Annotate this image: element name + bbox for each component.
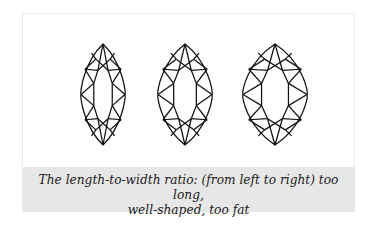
marquise-diamond-too-long: [81, 44, 125, 145]
marquise-diamond-well-shaped: [158, 44, 212, 145]
figure-caption: The length-to-width ratio: (from left to…: [22, 167, 355, 212]
caption-line-1: The length-to-width ratio: (from left to…: [22, 173, 355, 203]
marquise-diamond-too-fat: [243, 44, 307, 145]
marquise-diamond-comparison-figure: [0, 0, 373, 167]
caption-line-2: well-shaped, too fat: [22, 203, 355, 218]
